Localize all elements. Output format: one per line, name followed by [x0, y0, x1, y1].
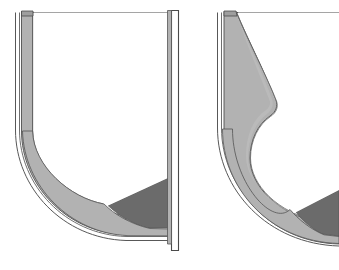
figure-canvas — [0, 0, 339, 270]
left-section-panel — [16, 11, 179, 251]
shell-top-corner-right — [224, 11, 237, 16]
cross-section-drawing — [0, 0, 339, 270]
right-section-panel — [218, 11, 339, 246]
shell-top-corner-left — [22, 11, 34, 16]
inner-void-left — [34, 13, 170, 204]
starboard-bulkhead-left — [168, 11, 179, 251]
